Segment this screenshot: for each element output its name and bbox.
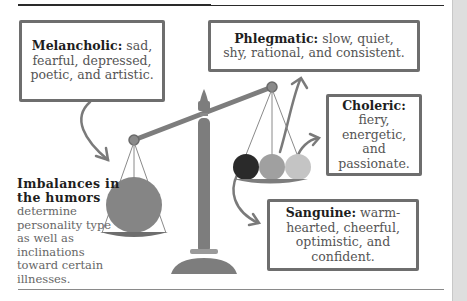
sanguine-ball	[233, 154, 259, 180]
choleric-label: Choleric:	[342, 98, 406, 113]
melancholic-box: Melancholic: sad, fearful, depressed, po…	[19, 20, 165, 102]
caption-heading: Imbalances in the humors	[17, 177, 127, 205]
phlegmatic-box: Phlegmatic: slow, quiet, shy, rational, …	[208, 20, 420, 72]
choleric-ball	[259, 154, 285, 180]
scale-base	[171, 258, 237, 274]
melancholic-label: Melancholic:	[32, 38, 123, 53]
choleric-text: Choleric: fiery, energetic, and passiona…	[333, 99, 415, 172]
melancholic-text: Melancholic: sad, fearful, depressed, po…	[28, 39, 156, 83]
scale-finial	[200, 89, 208, 101]
sanguine-label: Sanguine:	[286, 205, 356, 220]
scale-pillar	[198, 118, 210, 253]
diagram-page: Melancholic: sad, fearful, depressed, po…	[0, 0, 452, 301]
sanguine-text: Sanguine: warm-hearted, cheerful, optimi…	[278, 206, 408, 264]
melancholic-arrow	[81, 102, 108, 160]
caption-body: determine personality type as well as in…	[17, 204, 111, 286]
phlegmatic-text: Phlegmatic: slow, quiet, shy, rational, …	[221, 32, 407, 61]
bottom-rule	[18, 289, 444, 290]
choleric-box: Choleric: fiery, energetic, and passiona…	[326, 94, 422, 176]
phlegmatic-ball	[285, 154, 311, 180]
right-pan	[233, 179, 308, 184]
choleric-description: fiery, energetic, and passionate.	[338, 112, 410, 171]
page-gutter	[452, 0, 467, 301]
sanguine-box: Sanguine: warm-hearted, cheerful, optimi…	[267, 199, 419, 271]
humors-caption: Imbalances in the humors determine perso…	[17, 177, 127, 286]
phlegmatic-label: Phlegmatic:	[234, 31, 318, 46]
phlegmatic-arrow	[280, 80, 300, 152]
